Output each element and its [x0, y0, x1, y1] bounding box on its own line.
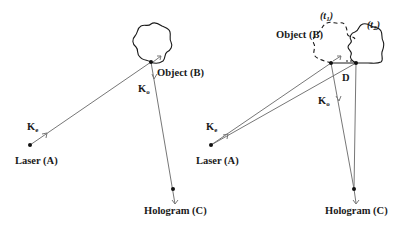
point-hologram [171, 187, 175, 191]
label-ke: Ke [27, 121, 38, 134]
point-laser [209, 143, 213, 147]
label-laser: Laser (A) [15, 155, 58, 167]
label-t1: (t1) [320, 10, 333, 23]
ray-illumination [30, 62, 151, 145]
object-outline [133, 23, 172, 63]
arrow-icon [336, 96, 341, 101]
ray-illumination-t1 [211, 63, 331, 145]
label-ko: Ko [138, 83, 150, 96]
ray-observation [151, 62, 175, 204]
point-hologram [352, 187, 356, 191]
label-displacement: D [342, 72, 350, 83]
arrow-icon [333, 56, 341, 61]
holography-diagram: Ke Laser (A) Object (B) Ko Hologram (C) … [0, 0, 406, 228]
point-laser [28, 143, 32, 147]
ray-observation-t2 [354, 63, 356, 189]
label-object: Object (B) [276, 29, 323, 41]
label-hologram: Hologram (C) [325, 205, 388, 217]
panel-displaced: (t1) (t2) Object (B) D Ko Ke Laser (A) H… [196, 10, 388, 217]
label-t2: (t2) [367, 19, 380, 32]
point-object-t2 [354, 61, 358, 65]
arrow-icon [153, 56, 161, 62]
label-ke: Ke [206, 121, 217, 134]
label-hologram: Hologram (C) [144, 205, 207, 217]
label-ko: Ko [318, 95, 330, 108]
panel-static: Ke Laser (A) Object (B) Ko Hologram (C) [15, 23, 207, 217]
ray-illumination-t2 [211, 63, 356, 145]
label-laser: Laser (A) [196, 155, 239, 167]
point-object-t1 [329, 61, 333, 65]
label-object: Object (B) [157, 67, 204, 79]
point-object [149, 60, 153, 64]
